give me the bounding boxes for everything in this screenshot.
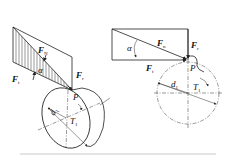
label-alpha: α	[38, 65, 43, 75]
label-p: P	[189, 63, 196, 73]
label-fr: Fr	[190, 40, 199, 51]
gear-force-diagram: FN Ft Fr α P d1 T1 Fn Fr Ft α P d1 T1	[0, 0, 233, 162]
left-view: FN Ft Fr α P d1 T1	[11, 20, 110, 155]
label-t1: T1	[193, 82, 201, 93]
label-ft: Ft	[11, 74, 20, 85]
label-t1: T1	[70, 116, 78, 127]
label-ft: Ft	[145, 63, 154, 74]
fn-arrow	[112, 29, 186, 59]
label-alpha: α	[127, 43, 132, 53]
figure-caption	[20, 153, 216, 155]
label-p: P	[72, 92, 79, 102]
label-fn: FN	[37, 45, 48, 56]
right-view: Fn Fr Ft α P d1 T1	[112, 29, 222, 128]
label-d1: d1	[171, 79, 179, 90]
label-fn: Fn	[156, 38, 166, 49]
label-fr: Fr	[75, 70, 84, 81]
alpha-arc	[134, 40, 137, 57]
label-d1: d1	[47, 106, 60, 118]
